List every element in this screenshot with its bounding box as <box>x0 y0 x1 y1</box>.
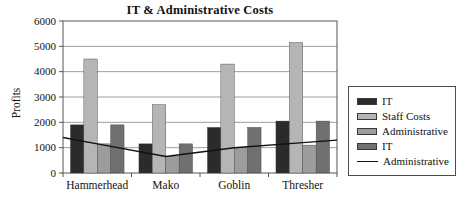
x-axis-label-hammerhead: Hammerhead <box>66 179 128 191</box>
bar-administrative-s2-hammerhead <box>97 144 110 173</box>
legend-swatch-icon <box>357 98 377 105</box>
y-axis-tick-label: 0 <box>51 167 57 179</box>
legend-label: Staff Costs <box>382 111 430 122</box>
bar-it-s0-thresher <box>276 121 289 173</box>
legend-label: Administrative <box>382 126 448 137</box>
legend-entry-staff-costs: Staff Costs <box>357 109 455 124</box>
y-axis-tick-label: 4000 <box>34 65 57 77</box>
legend-swatch-icon <box>357 128 377 135</box>
y-axis-tick-label: 5000 <box>34 40 57 52</box>
x-axis-label-thresher: Thresher <box>282 179 323 191</box>
y-axis-tick-label: 1000 <box>34 141 57 153</box>
bar-administrative-s2-mako <box>166 157 179 173</box>
legend-entry-it: IT <box>357 139 455 154</box>
legend-entry-administrative: Administrative <box>357 124 455 139</box>
y-axis-tick-label: 6000 <box>34 15 57 27</box>
y-axis-tick-label: 3000 <box>34 91 57 103</box>
x-axis-label-mako: Mako <box>152 179 179 191</box>
legend-entry-administrative: Administrative <box>357 154 455 169</box>
legend-swatch-icon <box>357 143 377 150</box>
bar-staff-costs-s1-mako <box>152 105 165 173</box>
legend-entry-it: IT <box>357 94 455 109</box>
bar-it-s0-hammerhead <box>70 125 83 173</box>
legend-label: Administrative <box>383 156 449 167</box>
bar-it-s3-goblin <box>248 127 261 173</box>
bar-administrative-s2-thresher <box>303 145 316 173</box>
legend: ITStaff CostsAdministrativeITAdministrat… <box>348 86 456 176</box>
bar-staff-costs-s1-goblin <box>221 64 234 173</box>
chart: IT & Administrative Costs Profits 010002… <box>0 0 465 200</box>
legend-swatch-icon <box>357 113 377 120</box>
legend-label: IT <box>382 141 392 152</box>
bar-it-s0-mako <box>139 144 152 173</box>
bar-it-s3-thresher <box>316 121 329 173</box>
x-axis-label-goblin: Goblin <box>218 179 250 191</box>
bar-administrative-s2-goblin <box>234 148 247 173</box>
legend-line-swatch-icon <box>357 161 378 162</box>
bar-staff-costs-s1-thresher <box>289 43 302 173</box>
y-axis-tick-label: 2000 <box>34 116 57 128</box>
legend-label: IT <box>382 96 392 107</box>
bar-it-s3-mako <box>179 144 192 173</box>
bar-staff-costs-s1-hammerhead <box>84 59 97 173</box>
